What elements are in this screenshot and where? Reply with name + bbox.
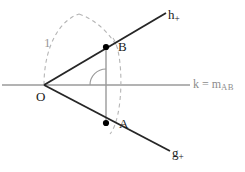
label-axis-k: k = mAB — [193, 78, 234, 92]
point-b-dot — [103, 44, 109, 50]
ray-g-plus — [44, 85, 170, 151]
label-vertex-o: O — [36, 90, 45, 103]
label-ray-h-plus: h+ — [168, 8, 180, 24]
geometry-figure: h+ g+ k = mAB B A O 1 — [0, 0, 245, 172]
label-point-b: B — [118, 40, 127, 53]
point-a-dot — [103, 120, 109, 126]
label-ray-g-plus: g+ — [172, 146, 184, 162]
right-angle-arc — [90, 69, 106, 85]
label-point-a: A — [119, 117, 128, 130]
label-axis-sub: AB — [221, 82, 234, 92]
label-ray-h-sub: + — [175, 14, 181, 24]
label-ray-g-sub: + — [179, 152, 185, 162]
label-radius-one: 1 — [44, 36, 51, 49]
label-axis-base: k = m — [193, 77, 221, 91]
